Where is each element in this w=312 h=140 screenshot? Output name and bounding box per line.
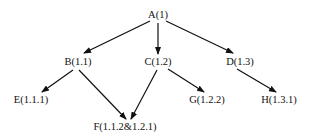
edge-b-e [42,70,73,92]
node-d: D(1.3) [226,57,254,68]
node-b: B(1.1) [64,57,91,68]
edge-b-f [79,70,126,119]
node-c: C(1.2) [144,57,171,68]
node-a: A(1) [148,10,168,21]
edge-c-f [131,70,157,119]
edge-d-h [237,69,276,92]
node-g: G(1.2.2) [189,95,225,106]
edge-c-g [168,69,204,92]
tree-diagram: A(1) B(1.1) C(1.2) D(1.3) E(1.1.1) F(1.1… [0,0,312,140]
edge-a-d [166,21,233,53]
edges-layer [0,0,312,140]
edge-a-b [84,21,150,53]
node-f: F(1.1.2&1.2.1) [94,122,157,133]
node-e: E(1.1.1) [14,95,48,106]
node-h: H(1.3.1) [261,95,297,106]
